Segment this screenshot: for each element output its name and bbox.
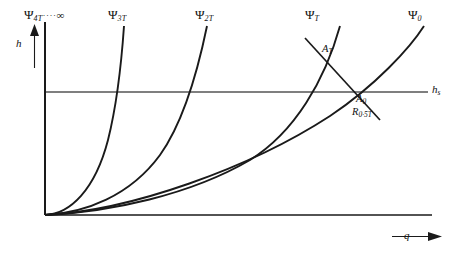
curve-label-psi-2t: Ψ2T — [195, 8, 213, 23]
curve-psi-3t — [45, 26, 124, 215]
curve-psi-0 — [45, 26, 424, 215]
operating-point-r-05t: R0·5T — [352, 107, 372, 119]
point-subscript: T — [328, 47, 332, 56]
curve-label-psi-0: Ψ0 — [408, 8, 422, 23]
psi-symbol: Ψ — [195, 7, 205, 22]
psi-subscript: 0 — [418, 14, 422, 23]
figure-container: Ψ4T····∞ Ψ3T Ψ2T ΨT Ψ0 h q hs AT A0 R0·5… — [0, 0, 458, 260]
static-head-label: hs — [432, 84, 440, 97]
plot-svg — [0, 0, 458, 260]
psi-subscript: 2T — [205, 14, 214, 23]
curve-label-psi-t: ΨT — [305, 8, 319, 23]
psi-symbol: Ψ — [24, 7, 34, 22]
psi-symbol: Ψ — [108, 7, 118, 22]
operating-point-a-0: A0 — [356, 94, 366, 106]
operating-point-a-t: AT — [322, 44, 333, 56]
y-axis-label: h — [16, 38, 22, 49]
x-axis-label: q — [404, 230, 410, 241]
psi-dots: ···· — [42, 10, 56, 20]
point-subscript: 0 — [362, 97, 366, 106]
static-head-subscript: s — [438, 88, 441, 97]
curve-label-psi-3t: Ψ3T — [108, 8, 126, 23]
psi-subscript: 3T — [118, 14, 127, 23]
point-subscript: 0·5T — [358, 110, 372, 119]
q-axis-arrow-icon — [428, 232, 442, 241]
psi-subscript: T — [315, 14, 320, 23]
psi-symbol: Ψ — [305, 7, 315, 22]
infinity-symbol: ∞ — [56, 9, 64, 21]
curve-label-psi-4t-inf: Ψ4T····∞ — [24, 8, 64, 23]
psi-symbol: Ψ — [408, 7, 418, 22]
